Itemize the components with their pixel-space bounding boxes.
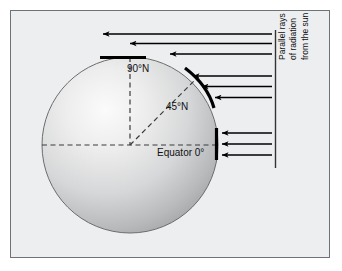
mid-latitude-rays-group — [193, 76, 272, 98]
caption-line-1: Parallel rays — [277, 0, 288, 60]
caption-line-2: of radiation — [288, 0, 299, 60]
caption-line-3: from the sun — [300, 0, 311, 60]
radiation-source-caption: Parallel rays of radiation from the sun — [277, 0, 311, 60]
equatorial-rays-group — [222, 133, 272, 155]
diagram-figure: 90°N 45°N Equator 0° Parallel rays of ra… — [0, 0, 342, 271]
label-equator: Equator 0° — [157, 148, 204, 158]
label-45n: 45°N — [166, 102, 188, 112]
label-90n: 90°N — [127, 64, 149, 74]
polar-rays-group — [103, 34, 272, 54]
